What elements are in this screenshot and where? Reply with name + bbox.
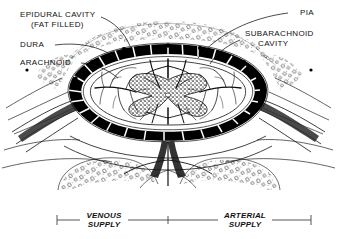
label-subarachnoid-line2: CAVITY	[258, 39, 288, 49]
label-epidural-cavity-line1: EPIDURAL CAVITY	[20, 10, 96, 20]
scale-label-venous-line2: SUPPLY	[80, 220, 128, 229]
scale-label-venous-line1: VENOUS	[80, 211, 128, 220]
scale-label-arterial-line2: SUPPLY	[218, 220, 272, 229]
scale-label-arterial-line1: ARTERIAL	[218, 211, 272, 220]
label-arachnoid: ARACHNOID	[20, 58, 71, 68]
label-subarachnoid-line1: SUBARACHNOID	[245, 29, 314, 39]
label-epidural-cavity-line2: (FAT FILLED)	[31, 20, 84, 30]
label-pia: PIA	[300, 8, 314, 18]
label-dura: DURA	[20, 40, 44, 50]
central-canal	[165, 93, 170, 97]
